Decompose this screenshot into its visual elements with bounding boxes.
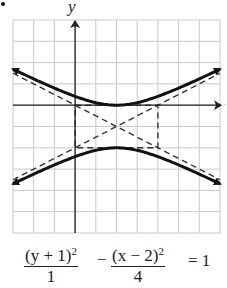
equation-term2: (x − 2)2 4 bbox=[111, 242, 165, 286]
equation: (y + 1)2 1 − (x − 2)2 4 = 1 bbox=[24, 242, 224, 288]
equation-minus: − bbox=[97, 251, 107, 269]
hyperbola-figure: y · (y + 1)2 1 − (x − 2)2 4 = 1 bbox=[0, 0, 227, 288]
grid bbox=[13, 20, 220, 233]
equation-term1: (y + 1)2 1 bbox=[24, 242, 78, 286]
equation-rhs: = 1 bbox=[188, 252, 210, 270]
x-axis-tick-mark: · bbox=[223, 100, 226, 109]
